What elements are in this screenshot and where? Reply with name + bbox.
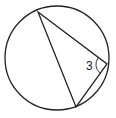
geometry-diagram: 3	[0, 0, 116, 118]
angle-arc	[96, 58, 100, 73]
angle-label: 3	[86, 59, 93, 73]
